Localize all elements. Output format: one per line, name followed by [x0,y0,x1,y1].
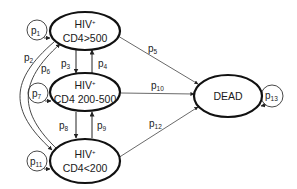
svg-text:CD4<200: CD4<200 [63,162,108,174]
label-p13: p13 [265,90,278,102]
node-cd4-over-500: HIV+ CD4>500 [50,12,120,50]
edge-p12 [118,107,198,158]
svg-text:DEAD: DEAD [213,90,243,102]
label-p8: p8 [59,120,69,132]
svg-text:CD4>500: CD4>500 [63,32,108,44]
label-p6: p6 [41,63,51,75]
node-dead: DEAD [194,75,262,117]
label-p1: p1 [31,25,41,37]
label-p10: p10 [151,80,164,92]
label-p12: p12 [149,118,162,130]
label-p5: p5 [148,43,158,55]
edge-p10 [121,93,194,94]
markov-diagram: HIV+ CD4>500 HIV+ CD4 200-500 HIV+ CD4<2… [0,0,297,189]
label-p9: p9 [97,120,107,132]
label-p4: p4 [98,58,108,70]
edge-p5 [118,36,198,84]
label-p7: p7 [32,88,42,100]
node-cd4-under-200: HIV+ CD4<200 [50,139,120,183]
label-p3: p3 [61,58,71,70]
label-p11: p11 [30,156,43,168]
label-p2: p2 [24,52,34,64]
node-cd4-200-500: HIV+ CD4 200-500 [50,73,120,111]
svg-text:CD4 200-500: CD4 200-500 [54,93,117,105]
